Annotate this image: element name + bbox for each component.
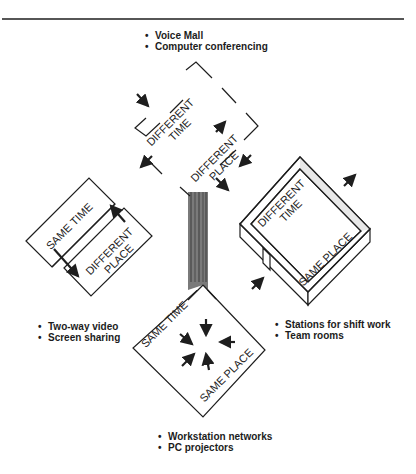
arrow-icon xyxy=(141,156,152,167)
left-example-item: Screen sharing xyxy=(38,332,120,343)
arrow-icon xyxy=(240,155,251,166)
arrow-icon xyxy=(216,122,225,132)
diagram-canvas: DIFFERENT TIME DIFFERENT PLACE SAME TIME… xyxy=(0,0,416,474)
right-examples-list: Stations for shift work Team rooms xyxy=(275,319,391,341)
bottom-examples-list: Workstation networks PC projectors xyxy=(158,431,272,453)
svg-text:DIFFERENT TIME: DIFFERENT TIME xyxy=(144,94,207,157)
top-labels: DIFFERENT TIME DIFFERENT PLACE xyxy=(144,94,251,193)
bottom-example-item: PC projectors xyxy=(158,442,272,453)
arrow-icon xyxy=(344,175,355,186)
quadrant-same-time-different-place xyxy=(26,178,152,296)
arrow-icon xyxy=(137,94,148,106)
svg-text:DIFFERENT PLACE: DIFFERENT PLACE xyxy=(188,130,251,193)
right-example-item: Team rooms xyxy=(275,330,391,341)
left-example-item: Two-way video xyxy=(38,321,120,332)
left-examples-list: Two-way video Screen sharing xyxy=(38,321,120,343)
bottom-example-item: Workstation networks xyxy=(158,431,272,442)
top-example-item: Voice Mall xyxy=(145,30,268,41)
top-example-item: Computer conferencing xyxy=(145,41,268,52)
time-place-diagram: DIFFERENT TIME DIFFERENT PLACE SAME TIME… xyxy=(0,0,416,474)
central-shaft xyxy=(188,192,208,288)
right-example-item: Stations for shift work xyxy=(275,319,391,330)
arrow-icon xyxy=(252,278,263,289)
top-examples-list: Voice Mall Computer conferencing xyxy=(145,30,268,52)
